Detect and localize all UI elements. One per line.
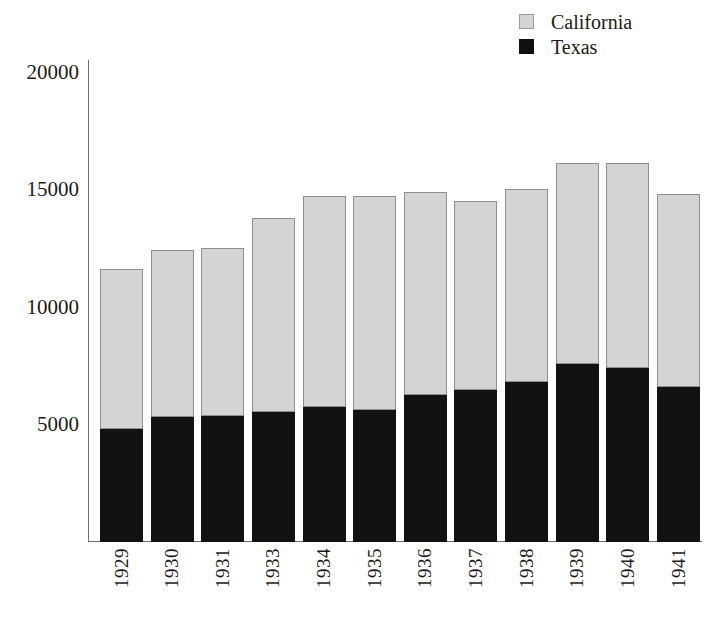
- bar-segment-california[interactable]: [353, 196, 396, 410]
- bar-segment-california[interactable]: [454, 201, 497, 390]
- x-tick-label: 1936: [415, 548, 434, 588]
- bar-group[interactable]: [454, 201, 497, 542]
- x-tick-label: 1941: [669, 548, 688, 588]
- california-swatch-icon: [519, 14, 534, 29]
- bar-group[interactable]: [252, 218, 295, 542]
- x-tick-label: 1939: [567, 548, 586, 588]
- bar-segment-california[interactable]: [100, 269, 143, 429]
- x-tick-label: 1938: [517, 548, 536, 588]
- bar-segment-texas[interactable]: [454, 390, 497, 542]
- legend-label-california: California: [551, 12, 632, 32]
- bar-group[interactable]: [404, 192, 447, 542]
- y-tick-label: 15000: [27, 179, 80, 200]
- legend-label-texas: Texas: [551, 37, 597, 57]
- bar-segment-california[interactable]: [252, 218, 295, 412]
- y-tick-label: 5000: [37, 414, 79, 435]
- bar-group[interactable]: [201, 248, 244, 542]
- chart-legend: California Texas: [519, 9, 709, 59]
- bar-segment-california[interactable]: [657, 194, 700, 387]
- x-tick-label: 1929: [112, 548, 131, 588]
- x-tick-label: 1935: [365, 548, 384, 588]
- x-tick-label: 1940: [618, 548, 637, 588]
- bar-segment-texas[interactable]: [353, 410, 396, 542]
- bar-group[interactable]: [505, 189, 548, 542]
- bar-segment-texas[interactable]: [151, 417, 194, 542]
- bar-group[interactable]: [151, 250, 194, 542]
- bar-segment-texas[interactable]: [252, 412, 295, 542]
- texas-swatch-icon: [519, 39, 534, 54]
- bar-group[interactable]: [303, 196, 346, 542]
- bar-segment-california[interactable]: [151, 250, 194, 417]
- bar-segment-texas[interactable]: [201, 416, 244, 542]
- bar-segment-california[interactable]: [404, 192, 447, 395]
- bar-segment-california[interactable]: [201, 248, 244, 416]
- bar-segment-texas[interactable]: [303, 407, 346, 542]
- x-tick-label: 1930: [162, 548, 181, 588]
- stacked-bar-chart: California Texas 5000100001500020000 192…: [0, 0, 720, 623]
- plot-area: 5000100001500020000 19291930193119331934…: [88, 60, 702, 542]
- x-tick-label: 1934: [314, 548, 333, 588]
- legend-item-texas[interactable]: Texas: [519, 34, 709, 59]
- bar-segment-texas[interactable]: [100, 429, 143, 542]
- x-tick-label: 1931: [213, 548, 232, 588]
- y-tick-label: 20000: [27, 61, 80, 82]
- bar-segment-texas[interactable]: [505, 382, 548, 542]
- bar-segment-texas[interactable]: [556, 364, 599, 542]
- bar-segment-california[interactable]: [556, 163, 599, 364]
- legend-item-california[interactable]: California: [519, 9, 709, 34]
- bar-segment-texas[interactable]: [657, 387, 700, 542]
- y-tick-label: 10000: [27, 296, 80, 317]
- x-tick-label: 1933: [263, 548, 282, 588]
- bar-group[interactable]: [606, 163, 649, 542]
- bar-group[interactable]: [100, 269, 143, 542]
- bar-segment-california[interactable]: [606, 163, 649, 368]
- x-tick-label: 1937: [466, 548, 485, 588]
- bar-segment-california[interactable]: [505, 189, 548, 382]
- bars-layer: [88, 60, 702, 542]
- bar-segment-california[interactable]: [303, 196, 346, 406]
- bar-segment-texas[interactable]: [404, 395, 447, 542]
- bar-segment-texas[interactable]: [606, 368, 649, 542]
- bar-group[interactable]: [657, 194, 700, 542]
- bar-group[interactable]: [556, 163, 599, 542]
- bar-group[interactable]: [353, 196, 396, 542]
